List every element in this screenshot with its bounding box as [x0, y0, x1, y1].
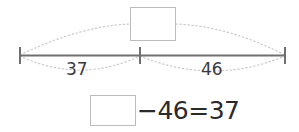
worksheet-canvas: 37 46 −46=37 — [0, 0, 299, 132]
arc-right-to-whole — [176, 24, 285, 55]
arc-left-to-whole — [20, 24, 130, 55]
total-answer-box[interactable] — [130, 7, 176, 41]
right-segment-label: 46 — [201, 61, 223, 78]
left-segment-label: 37 — [66, 61, 88, 78]
equation-unknown-box[interactable] — [90, 95, 136, 126]
equation-expression: −46=37 — [137, 98, 240, 123]
